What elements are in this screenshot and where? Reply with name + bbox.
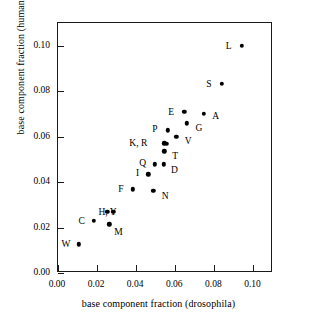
plot-area: LSEAGPVK, RTQDIFNH, YCMW <box>57 22 272 272</box>
data-point-label: P <box>152 124 157 134</box>
x-axis-tick-label: 0.02 <box>88 279 105 289</box>
y-axis-tick-label: 0.06 <box>16 131 50 141</box>
data-point-label: F <box>118 184 123 194</box>
y-axis-tick-label: 0.00 <box>16 267 50 277</box>
data-point-label: M <box>114 227 122 237</box>
data-point-label: W <box>62 239 71 249</box>
x-axis-tick <box>214 265 215 271</box>
data-point <box>151 189 155 193</box>
data-point <box>91 219 95 223</box>
x-axis-tick <box>58 265 59 271</box>
y-axis-tick <box>58 137 64 138</box>
data-point <box>182 110 186 114</box>
y-axis-tick <box>58 182 64 183</box>
data-point <box>185 121 189 125</box>
data-point <box>201 112 205 116</box>
data-point-label: A <box>212 111 219 121</box>
y-axis-tick <box>58 273 64 274</box>
x-axis-tick <box>253 265 254 271</box>
data-point <box>220 82 224 86</box>
y-axis-tick-label: 0.04 <box>16 176 50 186</box>
x-axis-title: base component fraction (drosophila) <box>0 298 317 309</box>
data-point <box>146 172 150 176</box>
scatter-plot-figure: base component fraction (human) LSEAGPVK… <box>0 0 317 327</box>
x-axis-tick <box>136 265 137 271</box>
data-point-label: D <box>171 165 178 175</box>
data-point <box>131 187 135 191</box>
data-point-label: N <box>162 191 169 201</box>
y-axis-title: base component fraction (human) <box>15 0 26 166</box>
data-point <box>77 242 81 246</box>
data-point-label: I <box>136 168 139 178</box>
y-axis-tick-label: 0.02 <box>16 222 50 232</box>
x-axis-tick <box>175 265 176 271</box>
x-axis-tick-label: 0.06 <box>166 279 183 289</box>
x-axis-tick-label: 0.04 <box>127 279 144 289</box>
x-axis-tick <box>97 265 98 271</box>
data-point-label: L <box>226 41 232 51</box>
data-point-label: E <box>168 107 174 117</box>
data-point-label: Q <box>139 158 146 168</box>
data-point-label: G <box>196 123 203 133</box>
y-axis-tick-label: 0.10 <box>16 40 50 50</box>
y-axis-tick <box>58 228 64 229</box>
data-point <box>166 128 170 132</box>
y-axis-tick <box>58 46 64 47</box>
data-point <box>174 135 178 139</box>
data-point-label: C <box>78 216 84 226</box>
data-point <box>161 162 165 166</box>
data-point-label: T <box>172 151 178 161</box>
x-axis-tick-label: 0.10 <box>244 279 261 289</box>
data-point-label: V <box>185 136 192 146</box>
data-point <box>164 142 168 146</box>
data-point <box>162 149 166 153</box>
data-point <box>153 162 157 166</box>
data-point-label: K, R <box>129 138 147 148</box>
x-axis-tick-label: 0.00 <box>49 279 66 289</box>
x-axis-tick-label: 0.08 <box>205 279 222 289</box>
data-point <box>107 222 111 226</box>
data-point <box>240 44 244 48</box>
data-point-label: S <box>206 79 211 89</box>
y-axis-tick-label: 0.08 <box>16 85 50 95</box>
y-axis-tick <box>58 91 64 92</box>
